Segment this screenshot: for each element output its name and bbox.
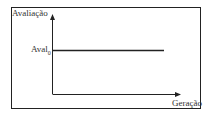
y-axis-label: Avaliação bbox=[12, 8, 48, 18]
level-label: Aval0 bbox=[31, 44, 51, 56]
y-axis-arrow-icon bbox=[50, 14, 55, 20]
x-axis-label: Geração bbox=[172, 98, 202, 108]
level-label-subscript: 0 bbox=[48, 50, 51, 56]
level-label-text: Aval bbox=[31, 44, 48, 54]
x-axis-arrow-icon bbox=[175, 92, 181, 97]
